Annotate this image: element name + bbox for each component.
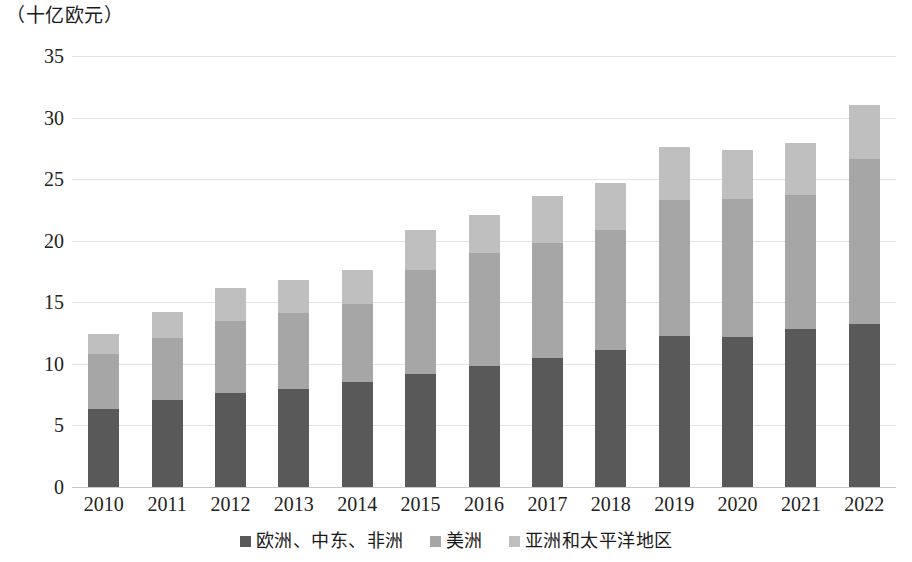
bar-segment: [278, 280, 309, 313]
bar-segment: [278, 313, 309, 388]
bar-segment: [215, 321, 246, 394]
y-axis-tick-label: 0: [20, 477, 64, 497]
legend-swatch-icon: [240, 536, 251, 547]
legend-item[interactable]: 美洲: [430, 530, 483, 552]
bar-stack: [152, 312, 183, 487]
bar-stack: [342, 270, 373, 487]
y-axis-tick-label: 25: [20, 169, 64, 189]
bar-segment: [152, 312, 183, 338]
legend-label: 亚洲和太平洋地区: [525, 530, 673, 552]
x-axis-tick-label: 2010: [72, 492, 135, 516]
bar-stack: [595, 183, 626, 487]
bar-segment: [278, 389, 309, 488]
bar-segment: [532, 243, 563, 358]
x-axis-tick-label: 2012: [199, 492, 262, 516]
bar-segment: [595, 230, 626, 351]
bar-segment: [405, 374, 436, 487]
legend-item[interactable]: 亚洲和太平洋地区: [509, 530, 673, 552]
bar-segment: [722, 150, 753, 199]
bar-segment: [532, 196, 563, 243]
x-axis-tick-label: 2021: [769, 492, 832, 516]
bar-segment: [405, 270, 436, 373]
y-axis-tick-label: 10: [20, 354, 64, 374]
bar-segment: [849, 105, 880, 159]
legend-label: 欧洲、中东、非洲: [256, 530, 404, 552]
bar-segment: [785, 329, 816, 487]
bar-segment: [469, 366, 500, 487]
bar-segment: [405, 230, 436, 271]
legend-label: 美洲: [446, 530, 483, 552]
y-axis-tick-labels: 05101520253035: [8, 56, 64, 487]
bar-segment: [785, 195, 816, 329]
bar-segment: [342, 304, 373, 383]
bar-segment: [342, 270, 373, 303]
y-axis-tick-label: 15: [20, 292, 64, 312]
bar-segment: [469, 253, 500, 366]
gridline: [72, 118, 896, 119]
x-axis-tick-label: 2014: [326, 492, 389, 516]
bar-stack: [785, 143, 816, 487]
x-axis-tick-label: 2018: [579, 492, 642, 516]
bar-segment: [659, 147, 690, 200]
y-axis-tick-label: 5: [20, 415, 64, 435]
bar-stack: [722, 150, 753, 487]
gridline: [72, 56, 896, 57]
y-axis-tick-label: 35: [20, 46, 64, 66]
bar-segment: [152, 338, 183, 400]
y-axis-unit-title: （十亿欧元）: [6, 4, 123, 28]
x-axis-tick-label: 2019: [642, 492, 705, 516]
bar-segment: [595, 183, 626, 230]
y-axis-tick-label: 20: [20, 231, 64, 251]
legend-swatch-icon: [430, 536, 441, 547]
bar-segment: [342, 382, 373, 487]
bar-segment: [532, 358, 563, 487]
bar-segment: [469, 215, 500, 253]
stacked-bar-chart: （十亿欧元） 05101520253035 201020112012201320…: [0, 0, 912, 562]
gridline: [72, 487, 896, 488]
bar-stack: [278, 280, 309, 487]
bar-segment: [785, 143, 816, 195]
gridline: [72, 179, 896, 180]
bar-segment: [595, 350, 626, 487]
legend-item[interactable]: 欧洲、中东、非洲: [240, 530, 404, 552]
bar-stack: [532, 196, 563, 487]
bar-segment: [88, 334, 119, 354]
bar-segment: [849, 159, 880, 324]
bar-segment: [152, 400, 183, 487]
bar-stack: [469, 215, 500, 487]
x-axis-tick-label: 2020: [706, 492, 769, 516]
bar-segment: [722, 199, 753, 337]
bar-stack: [849, 105, 880, 487]
bar-segment: [215, 393, 246, 487]
y-axis-tick-label: 30: [20, 108, 64, 128]
bar-segment: [659, 336, 690, 487]
x-axis-tick-labels: 2010201120122013201420152016201720182019…: [72, 492, 896, 520]
bar-stack: [405, 230, 436, 487]
x-axis-tick-label: 2017: [516, 492, 579, 516]
bar-stack: [659, 147, 690, 487]
legend-swatch-icon: [509, 536, 520, 547]
x-axis-tick-label: 2011: [135, 492, 198, 516]
bar-stack: [88, 334, 119, 487]
bar-segment: [659, 200, 690, 335]
bar-segment: [849, 324, 880, 487]
bar-segment: [88, 409, 119, 487]
bar-stack: [215, 288, 246, 487]
bar-segment: [722, 337, 753, 487]
x-axis-tick-label: 2022: [833, 492, 896, 516]
bar-segment: [88, 354, 119, 409]
bar-segment: [215, 288, 246, 321]
x-axis-tick-label: 2016: [452, 492, 515, 516]
x-axis-tick-label: 2015: [389, 492, 452, 516]
chart-legend: 欧洲、中东、非洲美洲亚洲和太平洋地区: [0, 530, 912, 552]
plot-area: [72, 56, 896, 487]
x-axis-tick-label: 2013: [262, 492, 325, 516]
